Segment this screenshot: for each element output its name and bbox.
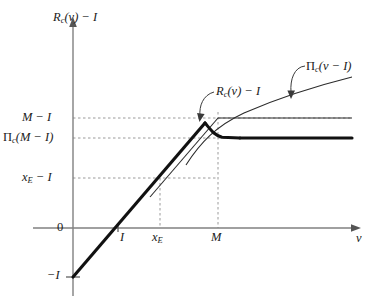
plot-svg	[0, 0, 390, 296]
thin-reference-line	[150, 118, 352, 197]
curve-rc-v-minus-i	[73, 123, 352, 277]
leader-rc-label	[200, 92, 214, 116]
thin-line-rising	[150, 118, 218, 197]
ytick-label-xe-minus-i: xE − I	[22, 171, 52, 185]
thick-line-rising	[73, 123, 205, 277]
ytick-label-neg-i: −I	[47, 269, 60, 282]
annotation-rc-v-minus-i: Rc(v) − I	[216, 85, 260, 99]
ytick-label-m-minus-i: M − I	[22, 111, 51, 124]
xtick-label-i: I	[120, 231, 124, 244]
leader-rc-curve	[200, 92, 214, 116]
annotation-pi-c-v-minus-i: Πc(v − I)	[306, 60, 352, 74]
xtick-label-xe: xE	[152, 231, 163, 245]
ytick-label-pic-m-minus-i: Πc(M − I)	[3, 131, 53, 145]
x-axis-label: v	[356, 232, 362, 245]
y-axis-label: Rc(v) − I	[53, 11, 97, 25]
leader-pi-arrowhead	[287, 90, 295, 99]
ytick-label-zero: 0	[57, 221, 63, 234]
figure-canvas: Rc(v) − I Πc(v − I) Rc(v) − I M − I Πc(M…	[0, 0, 390, 296]
leader-pi-curve	[291, 66, 305, 92]
leader-pi-label	[291, 66, 305, 92]
xtick-label-m: M	[211, 231, 221, 244]
curve-pi-c-v-minus-i	[186, 77, 352, 165]
